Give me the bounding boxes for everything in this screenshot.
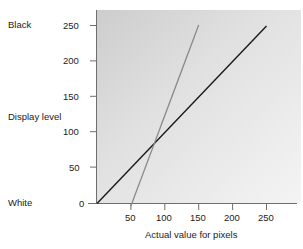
- y-tick-label-50: 50: [69, 163, 80, 173]
- y-tick-label-200: 200: [63, 56, 79, 66]
- y-axis-label-black: Black: [8, 20, 31, 30]
- y-tick-label-0: 0: [79, 199, 84, 209]
- x-tick-label-200: 200: [224, 213, 240, 223]
- x-axis-title: Actual value for pixels: [145, 230, 237, 240]
- y-tick-label-150: 150: [63, 92, 79, 102]
- y-axis-ticks: [90, 26, 96, 204]
- y-axis-title-display-level: Display level: [8, 112, 61, 122]
- plot-background: [96, 10, 301, 203]
- y-tick-label-250: 250: [63, 21, 79, 31]
- x-tick-label-150: 150: [190, 213, 206, 223]
- x-tick-label-50: 50: [125, 213, 136, 223]
- y-axis-label-white: White: [8, 198, 32, 208]
- x-tick-label-100: 100: [156, 213, 172, 223]
- chart-figure: 250 200 150 100 50 0 50 100 150 200 250 …: [0, 0, 303, 249]
- y-tick-label-100: 100: [63, 127, 79, 137]
- x-tick-label-250: 250: [258, 213, 274, 223]
- x-axis-ticks: [131, 204, 267, 211]
